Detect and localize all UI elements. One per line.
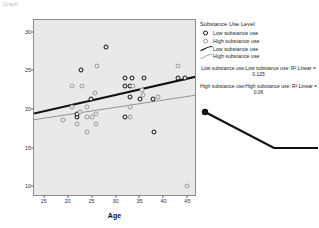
legend-title: Substance Use Level (200, 21, 317, 27)
y-tick-mark (31, 108, 34, 109)
y-tick-label: 25 (25, 67, 31, 73)
legend-item-label: High substance use (213, 38, 259, 44)
corner-note: Graph (3, 1, 18, 7)
pointer-annotation (200, 104, 319, 164)
legend-item-high-marker[interactable]: High substance use (200, 37, 317, 44)
legend-item-low-marker[interactable]: Low substance use (200, 30, 317, 37)
data-point-low (142, 75, 147, 80)
x-tick-label: 30 (112, 198, 118, 204)
data-point-low (123, 75, 128, 80)
legend-item-low-fit-line[interactable]: Low substance use (200, 45, 317, 52)
data-point-low (151, 130, 156, 135)
data-point-high (94, 111, 99, 116)
high-marker-icon (200, 37, 213, 44)
high-fit-line-icon (200, 53, 213, 60)
y-tick-mark (31, 70, 34, 71)
legend-item-high-fit-line[interactable]: High substance use (200, 53, 317, 60)
legend-item-label: Low substance use (213, 30, 258, 36)
data-point-high (155, 95, 160, 100)
low-marker-icon (200, 30, 213, 37)
data-point-high (79, 83, 84, 88)
data-point-high (141, 92, 146, 97)
data-point-high (130, 83, 135, 88)
data-point-low (88, 96, 93, 101)
x-tick-label: 20 (64, 198, 70, 204)
y-tick-label: 20 (25, 106, 31, 112)
legend-item-label: High substance use (213, 53, 259, 59)
data-point-high (95, 63, 100, 68)
data-point-low (78, 68, 83, 73)
plot-area: 101520253015202530354045 (33, 19, 196, 196)
data-point-high (70, 83, 75, 88)
data-point-high (93, 91, 98, 96)
data-point-high (185, 184, 190, 189)
y-tick-mark (31, 147, 34, 148)
data-point-low (103, 45, 108, 50)
data-point-high (175, 63, 180, 68)
x-tick-label: 45 (184, 198, 190, 204)
data-point-low (183, 75, 188, 80)
x-tick-label: 35 (136, 198, 142, 204)
x-tick-label: 15 (41, 198, 47, 204)
low-fit-line-icon (200, 45, 213, 52)
y-tick-mark (31, 31, 34, 32)
data-point-high (140, 88, 145, 93)
data-point-high (127, 105, 132, 110)
fit-line-layer (34, 20, 195, 195)
fit-line-low (34, 76, 195, 113)
data-point-high (78, 109, 83, 114)
data-point-high (84, 105, 89, 110)
data-point-high (60, 117, 65, 122)
x-tick-label: 40 (160, 198, 166, 204)
data-point-high (75, 122, 80, 127)
r2-annotation-high: High substance use:High substance use: R… (199, 84, 318, 95)
r2-annotation-low: Low substance use:Low substance use: R² … (199, 66, 318, 77)
x-tick-label: 25 (88, 198, 94, 204)
data-point-high (70, 105, 75, 110)
legend: Substance Use Level Low substance useHig… (200, 21, 317, 61)
x-axis-title: Age (33, 212, 196, 219)
y-tick-label: 15 (25, 145, 31, 151)
data-point-low (129, 75, 134, 80)
data-point-high (127, 114, 132, 119)
data-point-low (127, 95, 132, 100)
data-point-high (84, 130, 89, 135)
data-point-low (175, 75, 180, 80)
chart-canvas: Graph Self-Esteem Score Age 101520253015… (0, 0, 319, 228)
y-tick-label: 30 (25, 29, 31, 35)
plot-inner (34, 20, 195, 195)
y-tick-mark (31, 186, 34, 187)
data-point-high (94, 122, 99, 127)
legend-item-label: Low substance use (213, 46, 258, 52)
y-tick-label: 10 (25, 183, 31, 189)
